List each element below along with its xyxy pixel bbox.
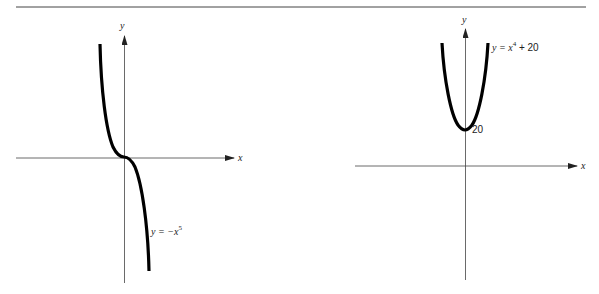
curve-x4-plus-20: [442, 43, 488, 130]
left-curve-label: y = −x5: [150, 224, 182, 237]
left-x-axis-label: x: [237, 152, 243, 163]
right-x-axis-label: x: [580, 160, 586, 171]
right-curve-label: y = x4 + 20: [491, 40, 539, 53]
right-y-axis-label: y: [461, 14, 467, 25]
left-graph: y x y = −x5: [16, 20, 243, 283]
right-graph: y x y = x4 + 20 20: [355, 14, 586, 280]
figure: y x y = −x5 y x y = x4 + 20 20: [0, 0, 599, 294]
left-y-axis-label: y: [119, 20, 125, 31]
intercept-label: 20: [472, 124, 484, 135]
